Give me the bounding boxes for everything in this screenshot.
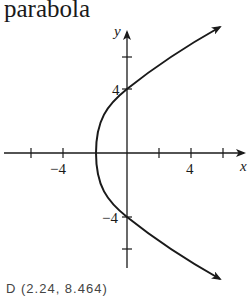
x-axis-label: x — [239, 158, 247, 174]
x-tick-label-neg4: −4 — [50, 161, 66, 177]
y-tick-label-neg4: −4 — [102, 210, 118, 226]
x-tick-label-4: 4 — [186, 161, 194, 177]
point-caption: D (2.24, 8.464) — [6, 282, 108, 296]
y-axis-label: y — [112, 23, 121, 39]
